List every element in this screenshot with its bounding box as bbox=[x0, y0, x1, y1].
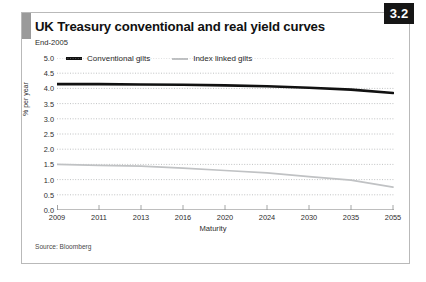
y-axis-tick-label: 1.5 bbox=[44, 160, 54, 169]
page-title: UK Treasury conventional and real yield … bbox=[35, 19, 325, 34]
source-note: Source: Bloomberg bbox=[35, 243, 91, 250]
y-axis-tick-label: 0.5 bbox=[44, 190, 54, 199]
accent-bar bbox=[22, 13, 31, 39]
y-axis-tick-labels: 0.00.51.01.52.02.53.03.54.04.55.0 bbox=[34, 52, 54, 216]
y-axis-tick-label: 4.0 bbox=[44, 84, 54, 93]
y-axis-tick-label: 5.0 bbox=[44, 54, 54, 63]
page-subtitle: End-2005 bbox=[35, 38, 68, 47]
chart-canvas bbox=[57, 58, 394, 210]
x-axis-tick-label: 2016 bbox=[175, 213, 191, 222]
x-axis-tick-label: 2035 bbox=[343, 213, 359, 222]
y-axis-title: % per year bbox=[22, 82, 29, 116]
x-axis-title: Maturity bbox=[0, 224, 426, 233]
y-axis-tick-label: 3.0 bbox=[44, 114, 54, 123]
y-axis-tick-label: 2.0 bbox=[44, 145, 54, 154]
y-axis-tick-label: 3.5 bbox=[44, 99, 54, 108]
x-axis-tick-label: 2055 bbox=[385, 213, 401, 222]
x-axis-tick-label: 2011 bbox=[91, 213, 107, 222]
y-axis-tick-label: 4.5 bbox=[44, 69, 54, 78]
x-axis-tick-label: 2030 bbox=[301, 213, 317, 222]
series-line bbox=[57, 164, 393, 187]
x-axis-tick-label: 2024 bbox=[259, 213, 275, 222]
x-axis-tick-label: 2020 bbox=[217, 213, 233, 222]
x-axis-tick-label: 2013 bbox=[133, 213, 149, 222]
y-axis-tick-label: 2.5 bbox=[44, 130, 54, 139]
y-axis-tick-label: 1.0 bbox=[44, 175, 54, 184]
figure-page: 3.2 UK Treasury conventional and real yi… bbox=[0, 0, 426, 282]
x-axis-tick-label: 2009 bbox=[49, 213, 65, 222]
figure-number-badge: 3.2 bbox=[384, 3, 414, 24]
plot-area bbox=[57, 58, 394, 210]
